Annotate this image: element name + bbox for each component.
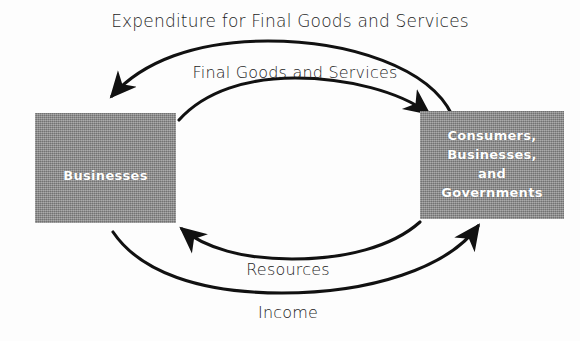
node-consumers-line-2: Businesses,: [441, 146, 542, 165]
node-consumers-businesses-governments: Consumers, Businesses, and Governments: [420, 111, 564, 219]
node-consumers-line-4: Governments: [441, 184, 542, 203]
node-consumers-label-block: Consumers, Businesses, and Governments: [441, 127, 542, 202]
node-businesses-label: Businesses: [63, 167, 147, 186]
arrow-bottom-inner-resources: [182, 222, 420, 259]
flow-label-final-goods-and-services: Final Goods and Services: [193, 63, 398, 82]
node-consumers-line-3: and: [441, 165, 542, 184]
node-businesses: Businesses: [35, 113, 176, 223]
flow-label-income: Income: [258, 303, 318, 322]
node-consumers-line-1: Consumers,: [441, 127, 542, 146]
flow-label-resources: Resources: [246, 260, 330, 279]
circular-flow-diagram: Expenditure for Final Goods and Services…: [0, 0, 580, 341]
diagram-title-expenditure: Expenditure for Final Goods and Services: [111, 11, 469, 31]
arrow-top-inner-final-goods: [179, 78, 428, 120]
